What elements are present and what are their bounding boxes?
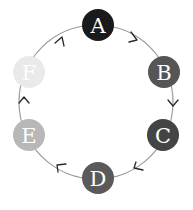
arrow-e-to-f-icon xyxy=(19,97,29,103)
arrow-f-to-a-icon xyxy=(55,37,64,46)
node-b-label: B xyxy=(156,61,171,85)
node-e-label: E xyxy=(21,124,36,148)
diagram-svg: A B C D E F xyxy=(0,0,193,210)
node-a-label: A xyxy=(89,14,106,38)
node-f: F xyxy=(13,56,45,88)
node-c: C xyxy=(147,119,179,151)
node-d: D xyxy=(82,162,114,194)
cycle-diagram: A B C D E F xyxy=(0,0,193,210)
node-b: B xyxy=(148,56,180,88)
node-a: A xyxy=(82,9,114,41)
cycle-ring xyxy=(19,25,173,179)
node-d-label: D xyxy=(90,167,107,191)
node-e: E xyxy=(13,119,45,151)
node-c-label: C xyxy=(155,124,171,148)
node-f-label: F xyxy=(22,61,37,85)
